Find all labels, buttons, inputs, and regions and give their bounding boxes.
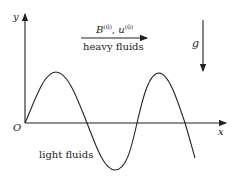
gravity-label: g [192,37,199,50]
diagram-canvas: y x O B(0), u(0) heavy fluids g light fl… [0,0,239,180]
origin-label: O [13,122,21,133]
heavy-fluids-label: heavy fluids [83,41,144,52]
interface-wave-diagram: y x O B(0), u(0) heavy fluids g light fl… [0,0,239,180]
y-axis-label: y [12,11,19,22]
light-fluids-label: light fluids [39,149,93,160]
flow-label-top: B(0), u(0) [95,23,133,35]
x-axis-label: x [218,126,224,137]
